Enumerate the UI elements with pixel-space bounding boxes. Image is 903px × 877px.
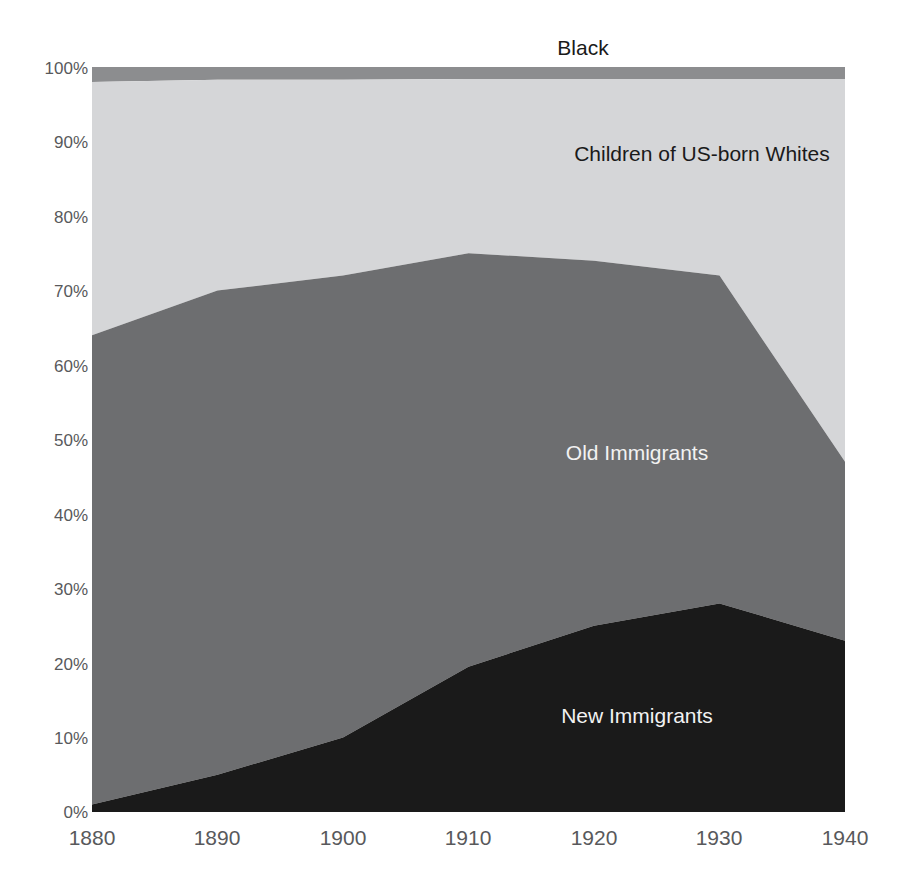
stacked-area-chart: 100% 90% 80% 70% 60% 50% 40% 30% 20% 10%… (0, 0, 903, 877)
y-tick-60: 60% (54, 357, 88, 376)
y-tick-10: 10% (54, 729, 88, 748)
series-label-old-immigrants: Old Immigrants (566, 441, 708, 464)
plot-area (92, 67, 845, 812)
y-tick-100: 100% (45, 59, 88, 78)
x-tick-1900: 1900 (320, 826, 367, 849)
y-tick-50: 50% (54, 431, 88, 450)
x-tick-1930: 1930 (696, 826, 743, 849)
y-tick-80: 80% (54, 208, 88, 227)
x-tick-1890: 1890 (194, 826, 241, 849)
x-tick-1880: 1880 (69, 826, 116, 849)
x-tick-1940: 1940 (822, 826, 869, 849)
chart-canvas: 100% 90% 80% 70% 60% 50% 40% 30% 20% 10%… (0, 0, 903, 877)
y-tick-20: 20% (54, 655, 88, 674)
series-label-black: Black (557, 36, 609, 59)
y-tick-0: 0% (63, 803, 88, 822)
y-tick-90: 90% (54, 133, 88, 152)
x-tick-1920: 1920 (571, 826, 618, 849)
series-label-new-immigrants: New Immigrants (561, 704, 713, 727)
series-label-children-of-us-born-whites: Children of US-born Whites (574, 142, 830, 165)
x-tick-1910: 1910 (445, 826, 492, 849)
y-tick-40: 40% (54, 506, 88, 525)
y-tick-70: 70% (54, 282, 88, 301)
y-tick-30: 30% (54, 580, 88, 599)
